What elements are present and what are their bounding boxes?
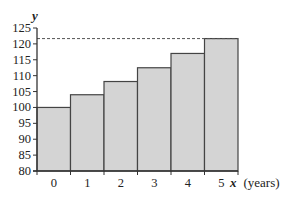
y-tick-label: 90 [19,132,32,146]
y-tick-label: 100 [12,100,31,114]
y-tick-label: 110 [13,69,31,83]
y-tick-label: 120 [12,37,31,51]
x-tick-label: 4 [185,176,192,190]
bar-chart: 80859095100105110115120125 012345 y x (y… [0,0,286,202]
x-tick-label: 0 [51,176,57,190]
x-tick-label: 2 [118,176,124,190]
x-axis-variable: x [229,175,237,190]
y-axis-title: y [30,8,38,23]
bar-2 [104,82,138,171]
bar-3 [138,68,172,171]
x-axis-title: x (years) [229,173,280,190]
x-tick-label: 5 [218,176,224,190]
y-tick-label: 125 [12,21,31,35]
y-tick-label: 115 [13,53,31,67]
y-axis: 80859095100105110115120125 [12,21,37,178]
bar-0 [37,107,71,171]
bar-5 [205,39,239,171]
bars-group [37,39,238,171]
y-tick-label: 95 [19,116,32,130]
bar-1 [71,95,105,171]
y-tick-label: 85 [19,148,32,162]
x-tick-label: 3 [151,176,157,190]
y-tick-label: 105 [12,85,31,99]
x-tick-label: 1 [84,176,90,190]
x-axis-unit: (years) [244,175,280,190]
bar-4 [171,53,205,171]
y-tick-label: 80 [19,164,32,178]
x-axis: 012345 [33,171,238,190]
